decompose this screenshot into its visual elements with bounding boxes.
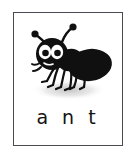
ant-illustration (14, 15, 122, 105)
left-eye-icon (39, 45, 51, 59)
word-label: a n t (14, 105, 122, 129)
ground-shadow-icon (32, 80, 106, 100)
flashcard-page: a n t (0, 0, 137, 154)
right-antenna-icon (62, 23, 77, 42)
flashcard: a n t (13, 12, 123, 146)
ant-drawing (14, 15, 122, 105)
mouth-parts-icon (32, 63, 41, 71)
right-eye-icon (51, 45, 63, 59)
